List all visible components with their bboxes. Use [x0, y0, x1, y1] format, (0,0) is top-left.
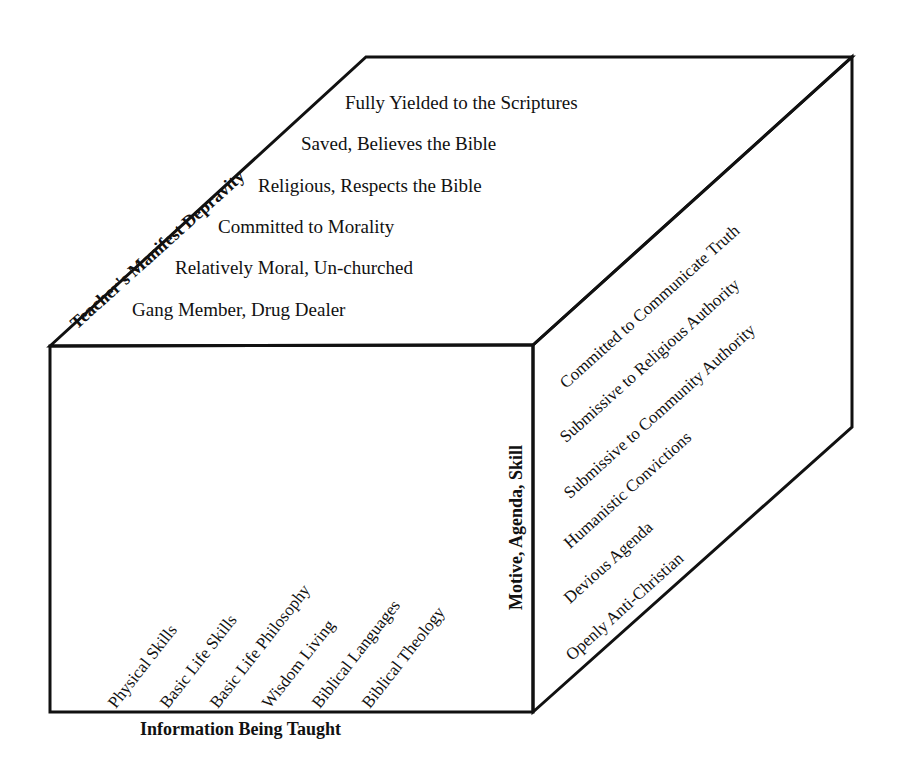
top-item-3: Religious, Respects the Bible	[258, 175, 482, 197]
top-item-5: Relatively Moral, Un-churched	[175, 257, 413, 279]
top-item-2: Saved, Believes the Bible	[301, 133, 496, 155]
top-item-1: Fully Yielded to the Scriptures	[345, 92, 578, 114]
top-item-6: Gang Member, Drug Dealer	[132, 299, 345, 321]
top-item-4: Committed to Morality	[218, 216, 394, 238]
axis-label-motive: Motive, Agenda, Skill	[506, 445, 527, 610]
axis-label-information: Information Being Taught	[140, 719, 341, 740]
